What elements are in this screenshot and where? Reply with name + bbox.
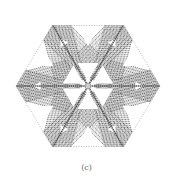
lattice-diagram bbox=[0, 0, 173, 181]
hexagonal-lattice-figure bbox=[0, 0, 173, 181]
figure-caption: (c) bbox=[0, 163, 173, 172]
